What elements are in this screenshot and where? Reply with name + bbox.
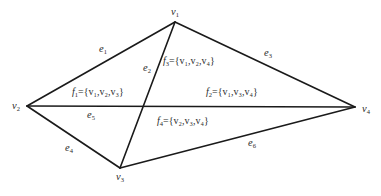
vertex-label-v2: v2 bbox=[12, 101, 20, 113]
edge-label-e1: e1 bbox=[99, 44, 107, 56]
edge-e6 bbox=[120, 107, 355, 168]
face-label-f4: f4={v₂,v₃,v₄} bbox=[157, 116, 209, 128]
edge-label-e5: e5 bbox=[87, 110, 95, 122]
face-label-f3: f3={v₁,v₂,v₄} bbox=[163, 56, 215, 68]
edge-e5 bbox=[27, 106, 355, 107]
face-label-f1: f1={v₁,v₂,v₃} bbox=[72, 87, 124, 99]
edge-label-e2: e2 bbox=[143, 63, 151, 75]
edge-e2 bbox=[120, 22, 175, 168]
edge-label-e6: e6 bbox=[248, 138, 256, 150]
graph-diagram: v1 v2 v3 v4 e1 e2 e3 e4 e5 e6 f1={v₁,v₂,… bbox=[0, 0, 381, 196]
edge-label-e3: e3 bbox=[264, 48, 272, 60]
edge-label-e4: e4 bbox=[65, 143, 73, 155]
vertex-label-v4: v4 bbox=[362, 104, 370, 116]
edge-e4 bbox=[27, 106, 120, 168]
face-label-f2: f2={v₁,v₃,v₄} bbox=[206, 87, 258, 99]
graph-edges bbox=[0, 0, 381, 196]
vertex-label-v1: v1 bbox=[171, 7, 179, 19]
vertex-label-v3: v3 bbox=[116, 172, 124, 184]
